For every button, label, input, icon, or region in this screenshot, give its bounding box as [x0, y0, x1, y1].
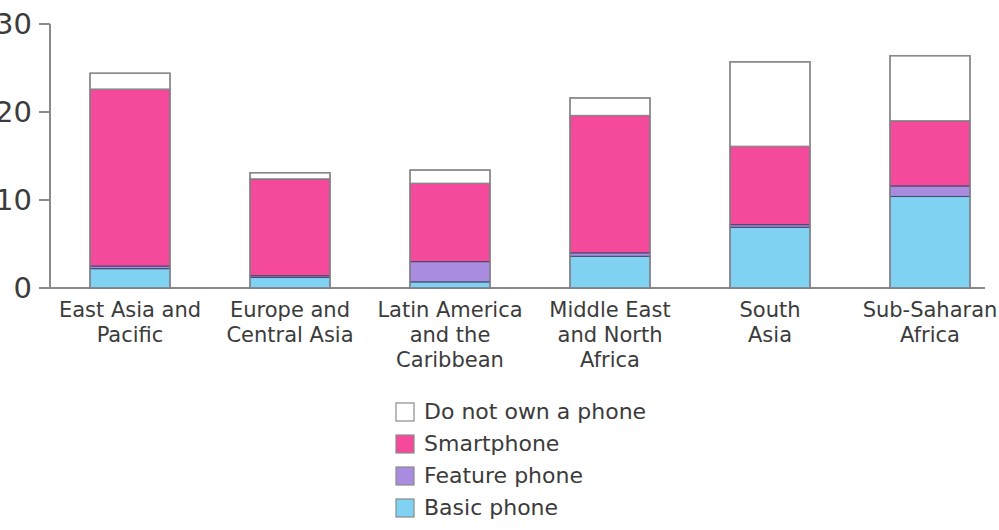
legend-swatch: [396, 499, 414, 517]
bar-segment: [410, 183, 490, 261]
category-label: Sub-Saharan: [863, 298, 998, 322]
category-label: Central Asia: [226, 323, 353, 347]
bar-segment: [410, 262, 490, 282]
bar-segment: [410, 282, 490, 288]
bar-segment: [90, 269, 170, 288]
chart-canvas: 0102030 East Asia andPacificEurope andCe…: [0, 0, 999, 530]
category-label: and the: [410, 323, 491, 347]
y-axis-tick-label: 20: [0, 95, 32, 129]
legend-label: Feature phone: [424, 463, 583, 488]
category-label: East Asia and: [59, 298, 201, 322]
chart-legend: Do not own a phoneSmartphoneFeature phon…: [396, 399, 646, 520]
bar-segment: [250, 179, 330, 276]
bar-segment: [570, 116, 650, 253]
category-label: Pacific: [97, 323, 164, 347]
legend-label: Do not own a phone: [424, 399, 646, 424]
category-label: Caribbean: [396, 348, 504, 372]
category-label: Africa: [580, 348, 640, 372]
bar-segment: [890, 186, 970, 197]
bar-segment: [410, 170, 490, 183]
bars-layer: [90, 56, 970, 288]
bar-segment: [90, 89, 170, 266]
category-label: Asia: [748, 323, 792, 347]
bar-group: [250, 173, 330, 288]
bar-group: [410, 170, 490, 288]
y-axis-tick-label: 10: [0, 183, 32, 217]
bar-segment: [730, 146, 810, 224]
legend-swatch: [396, 467, 414, 485]
category-label: South: [739, 298, 800, 322]
bar-segment: [890, 56, 970, 121]
category-label: Middle East: [549, 298, 670, 322]
y-axis-tick-label: 30: [0, 7, 32, 41]
bar-segment: [90, 73, 170, 89]
bar-segment: [890, 196, 970, 288]
category-label: and North: [558, 323, 663, 347]
bar-segment: [890, 121, 970, 186]
legend-label: Basic phone: [424, 495, 558, 520]
bar-segment: [570, 98, 650, 116]
bar-group: [570, 98, 650, 288]
bar-group: [890, 56, 970, 288]
bar-group: [730, 62, 810, 288]
bar-segment: [570, 256, 650, 288]
bar-segment: [730, 62, 810, 146]
category-label: Latin America: [377, 298, 522, 322]
bar-segment: [730, 227, 810, 288]
bar-segment: [250, 277, 330, 288]
bar-group: [90, 73, 170, 288]
category-axis-labels: East Asia andPacificEurope andCentral As…: [59, 298, 997, 372]
legend-label: Smartphone: [424, 431, 559, 456]
category-label: Africa: [900, 323, 960, 347]
legend-swatch: [396, 435, 414, 453]
stacked-bar-chart: 0102030 East Asia andPacificEurope andCe…: [0, 0, 999, 530]
legend-swatch: [396, 403, 414, 421]
bar-segment: [250, 173, 330, 179]
y-axis-tick-label: 0: [14, 271, 32, 305]
category-label: Europe and: [230, 298, 350, 322]
